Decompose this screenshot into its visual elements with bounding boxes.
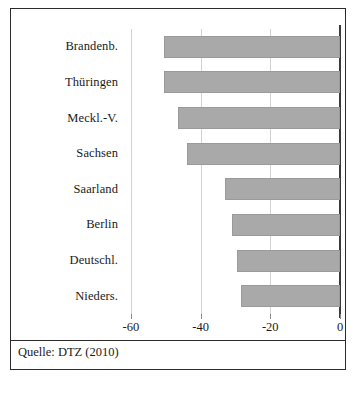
x-tick-label: -20 <box>262 320 279 335</box>
bar <box>241 285 340 307</box>
bar <box>164 36 340 58</box>
footer-divider <box>11 340 345 341</box>
bar-row <box>11 100 346 136</box>
bar <box>237 250 340 272</box>
bar <box>232 214 340 236</box>
bar <box>187 143 340 165</box>
plot-area: Brandenb. Thüringen Meckl.-V. Sachsen Sa… <box>11 9 345 329</box>
source-note: Quelle: DTZ (2010) <box>18 345 119 360</box>
tickmark <box>201 314 202 319</box>
bar-series <box>11 29 346 314</box>
bar <box>178 107 340 129</box>
bar-row <box>11 136 346 172</box>
tickmark <box>270 314 271 319</box>
bar-row <box>11 207 346 243</box>
bar <box>225 178 340 200</box>
bar-row <box>11 172 346 208</box>
bar-row <box>11 243 346 279</box>
bar-row <box>11 278 346 314</box>
x-tick-label: -60 <box>123 320 140 335</box>
tickmark <box>131 314 132 319</box>
bars-area <box>11 29 346 314</box>
bar-row <box>11 65 346 101</box>
x-axis-labels: -60-40-200 <box>11 320 346 340</box>
chart-figure: Brandenb. Thüringen Meckl.-V. Sachsen Sa… <box>10 8 346 370</box>
tickmark <box>340 314 341 319</box>
x-tick-label: -40 <box>192 320 209 335</box>
bar <box>164 71 340 93</box>
x-tick-label: 0 <box>337 320 343 335</box>
bar-row <box>11 29 346 65</box>
